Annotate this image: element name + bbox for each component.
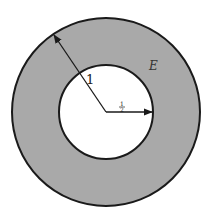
region-label: E [148,59,158,73]
annulus-diagram: 1 1 2 E [0,0,214,221]
outer-radius-label: 1 [86,72,94,87]
svg-text:2: 2 [120,106,124,113]
